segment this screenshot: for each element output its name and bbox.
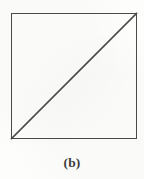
figure-svg: [0, 0, 144, 148]
diagonal-line: [12, 14, 137, 139]
figure-drawing-area: [0, 0, 144, 148]
figure-caption: (b): [0, 152, 144, 174]
figure-panel: (b): [0, 0, 144, 179]
